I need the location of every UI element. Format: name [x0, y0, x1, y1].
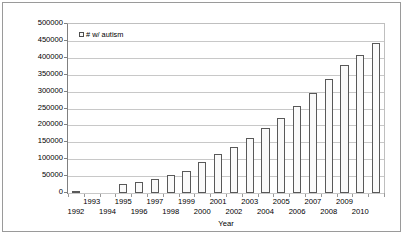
y-tick-label: 450000: [19, 36, 63, 44]
legend-item-label: # w/ autism: [86, 30, 123, 39]
bar-2011: [372, 43, 380, 193]
gridline: [68, 92, 384, 93]
bar-1992: [72, 191, 80, 193]
y-tick-label: 50000: [19, 171, 63, 179]
chart-legend: # w/ autism: [77, 29, 125, 40]
bar-1995: [119, 184, 127, 193]
x-tick-label-1997: 1997: [138, 197, 172, 206]
chart-screenshot: Number of children with autism (served b…: [0, 0, 403, 251]
bar-2006: [293, 106, 301, 193]
bar-2010: [356, 55, 364, 193]
x-tick-mark: [368, 194, 369, 197]
plot-area: [67, 23, 385, 194]
x-tick-label-2010: 2010: [343, 207, 377, 216]
x-tick-label-1999: 1999: [170, 197, 204, 206]
figure-frame: Number of children with autism (served b…: [2, 2, 401, 232]
gridline: [68, 176, 384, 177]
bar-2005: [277, 118, 285, 193]
bar-1996: [135, 182, 143, 193]
legend-swatch-icon: [79, 32, 84, 37]
gridline: [68, 109, 384, 110]
x-tick-label-2006: 2006: [280, 207, 314, 216]
bar-2008: [325, 79, 333, 193]
y-tick-label: 400000: [19, 53, 63, 61]
x-axis-title: Year: [67, 219, 385, 228]
gridline: [68, 41, 384, 42]
x-tick-label-2004: 2004: [249, 207, 283, 216]
y-tick-label: 200000: [19, 120, 63, 128]
bar-1997: [151, 179, 159, 193]
x-tick-label-2000: 2000: [185, 207, 219, 216]
x-tick-label-1995: 1995: [106, 197, 140, 206]
x-tick-label-2009: 2009: [328, 197, 362, 206]
y-tick-label: 500000: [19, 19, 63, 27]
y-tick-label: 150000: [19, 137, 63, 145]
bar-2001: [214, 154, 222, 193]
bar-2007: [309, 93, 317, 193]
x-tick-label-1994: 1994: [91, 207, 125, 216]
y-tick-label: 250000: [19, 104, 63, 112]
bar-2003: [246, 138, 254, 193]
y-tick-label: 100000: [19, 154, 63, 162]
bar-1998: [167, 175, 175, 193]
bar-2000: [198, 162, 206, 193]
x-tick-label-1993: 1993: [75, 197, 109, 206]
x-tick-mark: [384, 194, 385, 197]
x-tick-label-2007: 2007: [296, 197, 330, 206]
x-tick-label-2003: 2003: [233, 197, 267, 206]
x-tick-label-1998: 1998: [154, 207, 188, 216]
bar-2002: [230, 147, 238, 193]
gridline: [68, 58, 384, 59]
gridline: [68, 142, 384, 143]
gridline: [68, 75, 384, 76]
bar-2009: [340, 65, 348, 193]
bar-2004: [261, 128, 269, 193]
x-tick-label-2002: 2002: [217, 207, 251, 216]
bar-1999: [182, 171, 190, 193]
y-tick-label: 350000: [19, 70, 63, 78]
bottom-margin: [0, 233, 403, 251]
gridline: [68, 125, 384, 126]
x-tick-label-2001: 2001: [201, 197, 235, 206]
x-tick-label-2005: 2005: [264, 197, 298, 206]
gridline: [68, 159, 384, 160]
x-tick-label-2008: 2008: [312, 207, 346, 216]
y-tick-label: 0: [19, 188, 63, 196]
x-tick-label-1996: 1996: [122, 207, 156, 216]
x-tick-label-1992: 1992: [59, 207, 93, 216]
y-tick-label: 300000: [19, 87, 63, 95]
x-tick-mark: [68, 194, 69, 197]
